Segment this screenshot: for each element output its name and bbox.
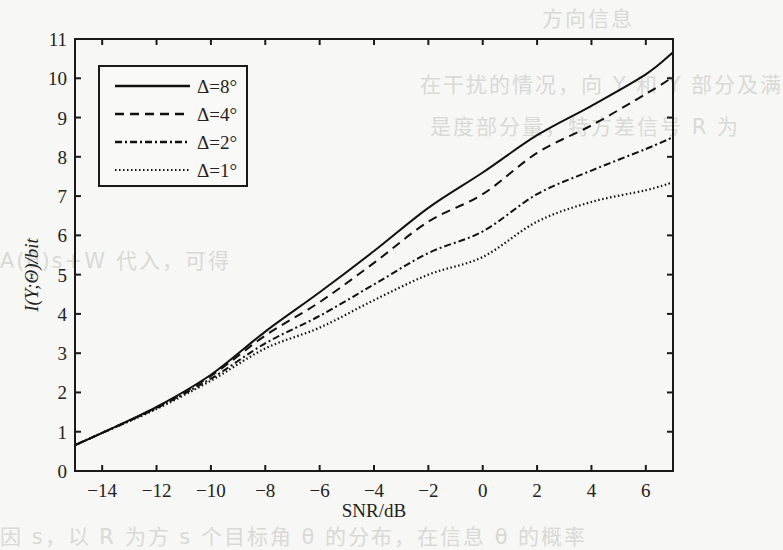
x-tick-label: −4 xyxy=(364,480,385,501)
y-tick-label: 1 xyxy=(58,422,68,443)
x-tick-label: 4 xyxy=(587,480,597,501)
y-tick-label: 5 xyxy=(58,265,68,286)
legend-label: Δ=4° xyxy=(197,104,237,125)
y-tick-label: 10 xyxy=(48,68,67,89)
series-line-4 xyxy=(75,182,673,445)
x-tick-label: −14 xyxy=(87,480,117,501)
x-tick-label: 0 xyxy=(478,480,488,501)
x-tick-label: −12 xyxy=(142,480,172,501)
x-tick-label: 2 xyxy=(532,480,542,501)
y-tick-label: 11 xyxy=(49,29,67,50)
x-tick-label: −2 xyxy=(418,480,438,501)
x-axis-title: SNR/dB xyxy=(342,500,406,521)
legend-label: Δ=2° xyxy=(197,132,237,153)
y-tick-label: 8 xyxy=(58,147,68,168)
x-tick-label: −6 xyxy=(310,480,330,501)
y-tick-label: 7 xyxy=(58,186,68,207)
y-tick-label: 2 xyxy=(58,382,68,403)
y-axis-title: I(Y;Θ)/bit xyxy=(21,237,43,312)
y-tick-label: 4 xyxy=(58,304,68,325)
y-tick-label: 6 xyxy=(58,225,68,246)
y-tick-label: 3 xyxy=(58,343,68,364)
legend-label: Δ=8° xyxy=(197,76,237,97)
y-tick-label: 9 xyxy=(58,108,68,129)
legend: Δ=8°Δ=4°Δ=2°Δ=1° xyxy=(99,66,247,186)
legend-label: Δ=1° xyxy=(197,160,237,181)
x-tick-label: 6 xyxy=(641,480,651,501)
x-tick-label: −8 xyxy=(255,480,275,501)
x-tick-label: −10 xyxy=(196,480,226,501)
y-tick-label: 0 xyxy=(58,461,68,482)
